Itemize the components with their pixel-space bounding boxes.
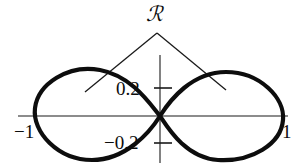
lemniscate-curve	[35, 69, 283, 160]
x-axis-label-negative-one: −1	[14, 122, 34, 141]
lemniscate-figure: −1 1 0.2 −0.2 ℛ	[0, 0, 300, 166]
region-label: ℛ	[146, 4, 163, 25]
y-axis-label-positive: 0.2	[116, 79, 140, 98]
y-axis-label-negative: −0.2	[104, 133, 138, 152]
x-axis-label-positive-one: 1	[282, 122, 292, 141]
